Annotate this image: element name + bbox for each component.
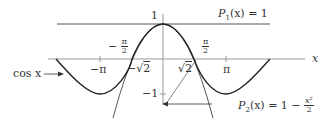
x-axis-label: x (312, 53, 318, 64)
x-tick-minus-pi-label: −π (90, 64, 106, 75)
x-tick-sqrt2-label: √2 (178, 63, 192, 74)
sqrt-radicand: 2 (185, 62, 192, 75)
x-tick-minus-pi-half-label: − π2 (108, 38, 128, 55)
x-squared-over-two: x²2 (304, 97, 314, 114)
pi-half-fraction: π2 (202, 38, 209, 55)
y-tick-minus-one-label: −1 (142, 88, 158, 99)
pi-half-fraction: π2 (121, 38, 128, 55)
x-tick-pi-label: π (223, 64, 230, 75)
p1-curve-label: P1(x) = 1 (218, 8, 268, 22)
p2-curve-label: P2(x) = 1 − x²2 (238, 97, 314, 114)
y-tick-one-label: 1 (151, 10, 158, 21)
cos-curve-label: cos x (13, 68, 41, 79)
sqrt-symbol: √ (178, 62, 185, 75)
x-tick-pi-half-label: π2 (202, 38, 209, 55)
minus-sign: − (127, 62, 136, 75)
cos-pointer-arrowhead (58, 72, 64, 77)
x-tick-minus-sqrt2-label: −√2 (127, 63, 150, 74)
sqrt-radicand: 2 (143, 62, 150, 75)
minus-sign: − (108, 40, 117, 53)
